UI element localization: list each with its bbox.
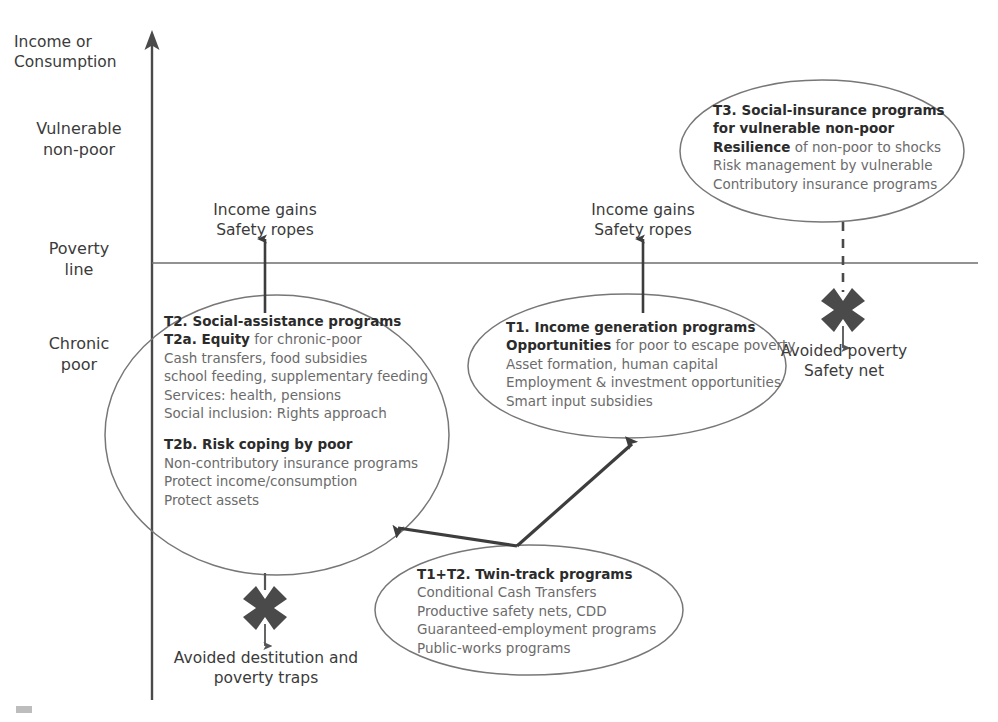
ellipse-text-bold: for vulnerable non-poor bbox=[713, 120, 894, 136]
ellipse-text-regular: for chronic-poor bbox=[250, 331, 362, 347]
ellipse-text-regular: Conditional Cash Transfers bbox=[417, 584, 597, 600]
ellipse-text-bold: T2b. Risk coping by poor bbox=[164, 436, 352, 452]
ellipse-t2-text: T2. Social-assistance programsT2a. Equit… bbox=[164, 312, 428, 509]
ellipse-text-line: Protect assets bbox=[164, 491, 428, 509]
ellipse-text-line: Non-contributory insurance programs bbox=[164, 454, 428, 472]
ellipse-text-line: Public-works programs bbox=[417, 639, 656, 657]
axis-label-vulnerable-non-poor: Vulnerable non-poor bbox=[20, 118, 138, 160]
ellipse-text-regular: Cash transfers, food subsidies bbox=[164, 350, 367, 366]
corner-mark bbox=[16, 706, 32, 713]
ellipse-text-line: T2b. Risk coping by poor bbox=[164, 435, 428, 453]
label-income-gains-left: Income gains Safety ropes bbox=[180, 200, 350, 240]
ellipse-text-line: school feeding, supplementary feeding bbox=[164, 367, 428, 385]
ellipse-text-regular: Public-works programs bbox=[417, 640, 570, 656]
ellipse-text-line: Guaranteed-employment programs bbox=[417, 620, 656, 638]
arrow-twin-to-t1 bbox=[517, 444, 632, 546]
ellipse-text-line: Opportunities for poor to escape poverty bbox=[506, 336, 795, 354]
ellipse-text-bold: Resilience bbox=[713, 139, 790, 155]
ellipse-text-regular: Contributory insurance programs bbox=[713, 176, 937, 192]
arrow-twin-to-t2 bbox=[398, 528, 517, 546]
ellipse-text-bold: Opportunities bbox=[506, 337, 611, 353]
ellipse-text-regular: school feeding, supplementary feeding bbox=[164, 368, 428, 384]
ellipse-text-regular: Productive safety nets, CDD bbox=[417, 603, 607, 619]
ellipse-text-regular: Smart input subsidies bbox=[506, 393, 653, 409]
ellipse-t3-text: T3. Social-insurance programsfor vulnera… bbox=[713, 101, 945, 193]
ellipse-text-line: T2. Social-assistance programs bbox=[164, 312, 428, 330]
ellipse-text-bold: T1. Income generation programs bbox=[506, 319, 755, 335]
ellipse-text-line: Asset formation, human capital bbox=[506, 355, 795, 373]
text-spacer bbox=[164, 422, 428, 435]
ellipse-text-regular: for poor to escape poverty bbox=[611, 337, 795, 353]
axis-label-poverty-line: Poverty line bbox=[20, 238, 138, 280]
ellipse-text-regular: Social inclusion: Rights approach bbox=[164, 405, 387, 421]
ellipse-text-line: T3. Social-insurance programs bbox=[713, 101, 945, 119]
ellipse-text-line: Social inclusion: Rights approach bbox=[164, 404, 428, 422]
label-income-gains-right: Income gains Safety ropes bbox=[558, 200, 728, 240]
diagram-canvas: Income or Consumption Vulnerable non-poo… bbox=[0, 0, 998, 722]
x-mark-bottom bbox=[243, 586, 287, 630]
ellipse-text-line: Resilience of non-poor to shocks bbox=[713, 138, 945, 156]
ellipse-text-line: Cash transfers, food subsidies bbox=[164, 349, 428, 367]
ellipse-text-line: Services: health, pensions bbox=[164, 386, 428, 404]
ellipse-text-regular: Services: health, pensions bbox=[164, 387, 341, 403]
ellipse-text-line: T1+T2. Twin-track programs bbox=[417, 565, 656, 583]
ellipse-text-line: for vulnerable non-poor bbox=[713, 119, 945, 137]
y-axis-title: Income or Consumption bbox=[14, 32, 134, 72]
ellipse-text-line: T1. Income generation programs bbox=[506, 318, 795, 336]
ellipse-text-regular: Asset formation, human capital bbox=[506, 356, 718, 372]
ellipse-text-bold: T3. Social-insurance programs bbox=[713, 102, 945, 118]
ellipse-text-bold: T1+T2. Twin-track programs bbox=[417, 566, 632, 582]
ellipse-text-line: Protect income/consumption bbox=[164, 472, 428, 490]
x-mark-right bbox=[821, 288, 865, 332]
ellipse-text-regular: Employment & investment opportunities bbox=[506, 374, 781, 390]
ellipse-text-bold: T2. Social-assistance programs bbox=[164, 313, 401, 329]
axis-label-chronic-poor: Chronic poor bbox=[20, 333, 138, 375]
ellipse-text-line: T2a. Equity for chronic-poor bbox=[164, 330, 428, 348]
ellipse-text-bold: T2a. Equity bbox=[164, 331, 250, 347]
ellipse-text-regular: Guaranteed-employment programs bbox=[417, 621, 656, 637]
ellipse-text-line: Conditional Cash Transfers bbox=[417, 583, 656, 601]
ellipse-text-regular: Non-contributory insurance programs bbox=[164, 455, 418, 471]
ellipse-text-regular: of non-poor to shocks bbox=[790, 139, 941, 155]
ellipse-text-line: Contributory insurance programs bbox=[713, 175, 945, 193]
ellipse-text-line: Productive safety nets, CDD bbox=[417, 602, 656, 620]
y-axis bbox=[145, 30, 160, 700]
ellipse-text-line: Employment & investment opportunities bbox=[506, 373, 795, 391]
ellipse-text-regular: Risk management by vulnerable bbox=[713, 157, 932, 173]
ellipse-text-regular: Protect income/consumption bbox=[164, 473, 357, 489]
ellipse-text-line: Risk management by vulnerable bbox=[713, 156, 945, 174]
ellipse-text-regular: Protect assets bbox=[164, 492, 259, 508]
ellipse-twin-track-text: T1+T2. Twin-track programsConditional Ca… bbox=[417, 565, 656, 657]
label-avoided-destitution: Avoided destitution and poverty traps bbox=[148, 648, 384, 688]
ellipse-text-line: Smart input subsidies bbox=[506, 392, 795, 410]
ellipse-t1-text: T1. Income generation programsOpportunit… bbox=[506, 318, 795, 410]
